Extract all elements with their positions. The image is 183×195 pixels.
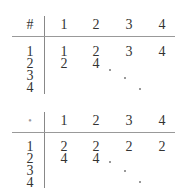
table-cell: 4 bbox=[154, 45, 170, 59]
column-divider bbox=[44, 16, 45, 94]
product-table: • 1 2 3 4 1 2 3 4 2 2 2 2 4 4 bbox=[12, 112, 175, 190]
col-header: 4 bbox=[154, 18, 170, 32]
column-divider bbox=[44, 112, 45, 188]
col-header: 1 bbox=[56, 114, 72, 128]
col-header: 4 bbox=[154, 114, 170, 128]
multiplication-table: # 1 2 3 4 1 2 3 4 1 2 3 4 2 4 bbox=[12, 16, 175, 94]
table-cell: 4 bbox=[56, 152, 72, 166]
ellipsis-dot bbox=[124, 77, 126, 79]
col-header: 1 bbox=[56, 18, 72, 32]
ellipsis-dot bbox=[139, 181, 141, 183]
row-header: 4 bbox=[22, 176, 38, 190]
table-cell: 3 bbox=[121, 45, 137, 59]
col-header: 2 bbox=[88, 18, 104, 32]
table-cell: 4 bbox=[88, 152, 104, 166]
corner-symbol: • bbox=[22, 114, 38, 128]
ellipsis-dot bbox=[124, 170, 126, 172]
ellipsis-dot bbox=[109, 161, 111, 163]
header-divider bbox=[12, 132, 175, 133]
col-header: 3 bbox=[121, 18, 137, 32]
ellipsis-dot bbox=[109, 69, 111, 71]
table-cell: 2 bbox=[154, 140, 170, 154]
table-cell: 4 bbox=[88, 57, 104, 71]
row-header: 4 bbox=[22, 81, 38, 95]
table-cell: 2 bbox=[56, 57, 72, 71]
corner-symbol: # bbox=[22, 18, 38, 32]
table-cell: 2 bbox=[121, 140, 137, 154]
col-header: 3 bbox=[121, 114, 137, 128]
ellipsis-dot bbox=[139, 88, 141, 90]
col-header: 2 bbox=[88, 114, 104, 128]
header-divider bbox=[12, 36, 175, 37]
